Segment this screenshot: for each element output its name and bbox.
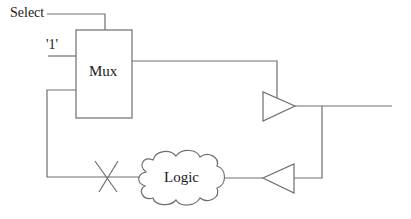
circuit-diagram: Select '1' Mux Logic — [0, 0, 411, 219]
select-label: Select — [10, 6, 44, 20]
forward-buffer-icon — [263, 92, 295, 121]
logic-label: Logic — [164, 170, 199, 185]
feedback-branch-wire — [294, 106, 322, 178]
feedback-buffer-icon — [263, 164, 294, 193]
logic-to-mux-wire — [47, 90, 140, 177]
mux-output-wire — [132, 61, 277, 98]
constant-one-label: '1' — [46, 38, 58, 52]
diagram-canvas — [0, 0, 411, 219]
mux-label: Mux — [89, 64, 117, 79]
select-wire — [47, 14, 105, 30]
